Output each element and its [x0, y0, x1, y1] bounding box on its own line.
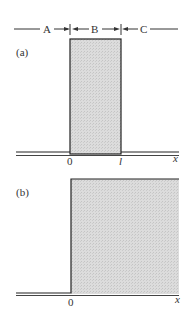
panel-a-label: (a) — [16, 46, 29, 59]
panel-b: (b) 0 x — [16, 179, 180, 308]
step-region — [71, 179, 179, 294]
arrow-left-icon — [122, 27, 128, 31]
axis-label-x-a: x — [172, 152, 178, 164]
region-label-a: A — [43, 23, 51, 35]
tick-label-0-a: 0 — [67, 155, 73, 167]
potential-diagram: A B C (a) 0 l x (b) 0 x — [0, 0, 190, 314]
arrow-right-icon — [64, 27, 70, 31]
barrier-rect — [70, 39, 121, 154]
region-markers: A B C — [14, 23, 178, 35]
arrow-left-icon — [72, 27, 78, 31]
panel-b-label: (b) — [16, 186, 29, 199]
arrow-right-icon — [114, 27, 120, 31]
region-label-b: B — [91, 23, 98, 35]
region-label-c: C — [140, 23, 147, 35]
panel-a: (a) 0 l x — [16, 39, 179, 167]
tick-label-0-b: 0 — [68, 296, 74, 308]
axis-label-x-b: x — [174, 293, 180, 305]
tick-label-l-a: l — [119, 155, 122, 167]
